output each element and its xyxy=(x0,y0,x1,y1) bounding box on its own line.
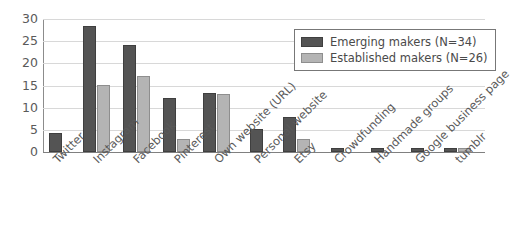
y-axis-labels: 051015202530 xyxy=(0,19,38,152)
y-tick-label-30: 30 xyxy=(4,13,38,25)
y-tick-label-0: 0 xyxy=(4,146,38,158)
legend-label-established: Established makers (N=26) xyxy=(330,52,488,65)
y-tick-label-15: 15 xyxy=(4,80,38,92)
legend-item-emerging: Emerging makers (N=34) xyxy=(301,34,488,50)
y-tick-label-10: 10 xyxy=(4,102,38,114)
legend-swatch-established-icon xyxy=(301,53,323,63)
x-axis-labels: TwitterInstagramFacebookPinterestOwn web… xyxy=(43,153,485,248)
legend-label-emerging: Emerging makers (N=34) xyxy=(330,36,477,49)
y-tick-label-25: 25 xyxy=(4,35,38,47)
y-tick-label-5: 5 xyxy=(4,124,38,136)
chart-legend: Emerging makers (N=34) Established maker… xyxy=(294,29,496,71)
y-tick-label-20: 20 xyxy=(4,57,38,69)
legend-swatch-emerging-icon xyxy=(301,37,323,47)
legend-item-established: Established makers (N=26) xyxy=(301,50,488,66)
bar xyxy=(83,26,96,152)
gridline-30 xyxy=(43,19,485,20)
